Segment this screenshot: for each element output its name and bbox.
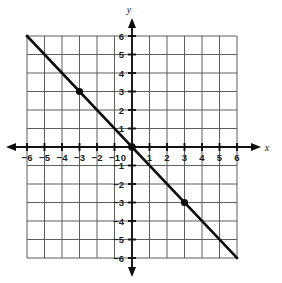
y-axis-arrow-up [128,18,136,28]
y-tick-label: 2 [119,105,124,116]
y-tick-label: 4 [119,68,125,79]
x-tick-label: −2 [92,152,103,163]
x-tick-label: −4 [57,152,69,163]
x-tick-label: −5 [39,152,51,163]
y-tick-label: 3 [119,86,124,97]
data-point-marker [128,143,136,151]
y-tick-label: 6 [119,31,124,42]
data-point-marker [181,199,188,206]
data-point-marker [76,88,83,95]
x-tick-label: 3 [182,152,187,163]
x-tick-label: 2 [164,152,169,163]
x-tick-label: 5 [217,152,223,163]
y-tick-label: −3 [113,197,124,208]
x-tick-label: 4 [199,152,205,163]
x-tick-label: −6 [22,152,33,163]
x-tick-label: 1 [147,152,153,163]
x-axis-label: x [264,142,270,153]
plot-svg: −6 −5 −4 −3 −2 −1 1 2 3 4 5 6 6 5 4 3 2 … [0,0,282,283]
coordinate-plane-figure: −6 −5 −4 −3 −2 −1 1 2 3 4 5 6 6 5 4 3 2 … [0,0,282,283]
x-axis-arrow-left [6,143,16,151]
x-tick-label: −3 [74,152,85,163]
y-axis-arrow-down [128,267,136,277]
y-axis-label: y [126,4,132,15]
y-tick-label: 5 [119,49,125,60]
x-axis-tick-labels: −6 −5 −4 −3 −2 −1 1 2 3 4 5 6 [22,152,240,163]
x-tick-label: 6 [234,152,239,163]
origin-label: 0 [121,152,126,163]
y-tick-label: −2 [113,179,124,190]
x-axis-arrow-right [251,143,261,151]
y-tick-label: −4 [113,216,125,227]
y-tick-label: −5 [113,234,125,245]
y-tick-label: −6 [113,253,124,264]
